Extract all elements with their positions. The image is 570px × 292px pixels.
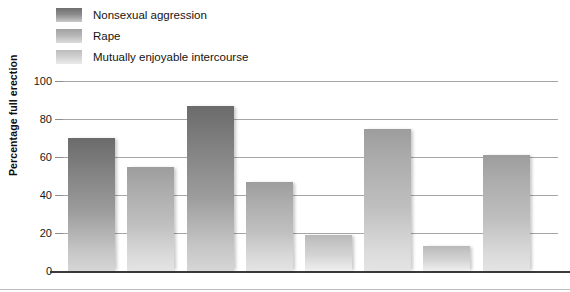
y-tick-60 <box>55 157 63 158</box>
x-axis-baseline <box>50 271 570 273</box>
bar-4 <box>246 182 293 271</box>
y-tick-label: 20 <box>40 227 52 239</box>
gridline-80 <box>63 119 558 120</box>
bar-6 <box>364 129 411 272</box>
y-axis-title: Percentage full erection <box>7 55 19 176</box>
y-tick-label: 100 <box>34 75 52 87</box>
bar-8 <box>483 155 530 271</box>
bar-chart-figure: Nonsexual aggression Rape Mutually enjoy… <box>0 0 570 292</box>
plot-area: 100 80 60 40 20 0 <box>63 81 558 271</box>
legend-swatch-icon <box>56 50 82 64</box>
y-tick-label: 80 <box>40 113 52 125</box>
legend-item-label: Rape <box>93 29 121 43</box>
y-tick-label: 60 <box>40 151 52 163</box>
y-tick-80 <box>55 119 63 120</box>
legend-item-nonsexual-aggression: Nonsexual aggression <box>56 8 248 22</box>
y-tick-100 <box>55 81 63 82</box>
y-tick-label: 40 <box>40 189 52 201</box>
legend-item-label: Nonsexual aggression <box>93 8 207 22</box>
bar-2 <box>127 167 174 272</box>
legend-swatch-icon <box>56 8 82 22</box>
gridline-100 <box>63 81 558 82</box>
legend-item-rape: Rape <box>56 29 248 43</box>
bar-5 <box>305 235 352 271</box>
legend-item-label: Mutually enjoyable intercourse <box>93 50 248 64</box>
bar-1 <box>68 138 115 271</box>
legend-swatch-icon <box>56 29 82 43</box>
y-tick-20 <box>55 233 63 234</box>
bar-7 <box>423 246 470 271</box>
bar-3 <box>187 106 234 271</box>
legend-item-mutually-enjoyable-intercourse: Mutually enjoyable intercourse <box>56 50 248 64</box>
y-tick-40 <box>55 195 63 196</box>
figure-bottom-rule <box>0 289 570 290</box>
chart-legend: Nonsexual aggression Rape Mutually enjoy… <box>56 8 248 64</box>
